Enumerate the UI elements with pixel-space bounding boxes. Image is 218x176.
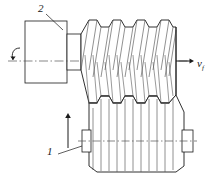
hob-cutter xyxy=(81,20,176,103)
feed-velocity-label: vf xyxy=(197,58,204,72)
figure-canvas: 2 1 vf xyxy=(0,0,218,176)
spindle-rotation-arrow xyxy=(10,48,20,60)
leader-line-workpiece xyxy=(58,146,82,154)
vertical-feed-arrow xyxy=(65,113,71,148)
gear-blank-workpiece xyxy=(78,95,197,172)
hobbing-diagram-svg xyxy=(0,0,218,176)
callout-label-workpiece: 1 xyxy=(47,146,53,157)
horizontal-feed-arrow xyxy=(176,58,194,63)
tool-holder-block xyxy=(25,21,81,83)
callout-label-tool: 2 xyxy=(38,3,44,14)
feed-velocity-subscript: f xyxy=(202,64,204,72)
